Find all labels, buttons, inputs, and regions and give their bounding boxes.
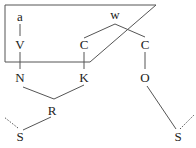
node-V: V	[15, 37, 25, 52]
dotted-edge-left	[4, 117, 18, 128]
enclosing-box	[5, 5, 156, 62]
edge-N-R	[23, 87, 54, 99]
node-R: R	[48, 103, 57, 118]
node-a: a	[17, 9, 23, 24]
node-N: N	[15, 70, 25, 85]
edge-K-R	[54, 85, 84, 99]
node-C-left: C	[80, 37, 89, 52]
edge-R-S	[23, 117, 51, 130]
node-K: K	[79, 70, 89, 85]
edge-O-S	[147, 86, 176, 129]
tree-diagram: a V N C K w C O R S S	[0, 0, 196, 148]
node-S-right: S	[174, 129, 181, 144]
node-O: O	[140, 70, 149, 85]
node-w: w	[110, 7, 120, 22]
node-C-right: C	[141, 37, 150, 52]
edge-C-w	[84, 24, 115, 38]
node-S-left: S	[16, 129, 23, 144]
dotted-edge-right	[180, 115, 194, 129]
edge-w-C	[115, 24, 145, 37]
